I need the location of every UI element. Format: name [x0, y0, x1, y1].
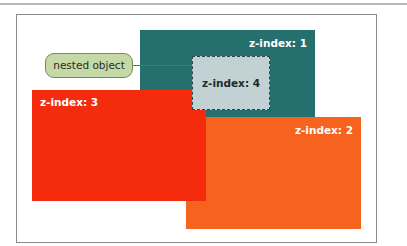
callout-connector-line [133, 65, 192, 66]
layer-label: z-index: 4 [193, 77, 269, 89]
layer-z-index-3: z-index: 3 [32, 90, 206, 201]
layer-label: z-index: 3 [40, 96, 98, 108]
top-divider [0, 3, 407, 5]
layer-z-index-2: z-index: 2 [186, 117, 361, 229]
layer-label: z-index: 2 [295, 124, 353, 136]
nested-object-callout: nested object [45, 53, 133, 78]
nested-layer-z-index-4: z-index: 4 [192, 56, 270, 110]
layer-label: z-index: 1 [249, 37, 307, 49]
